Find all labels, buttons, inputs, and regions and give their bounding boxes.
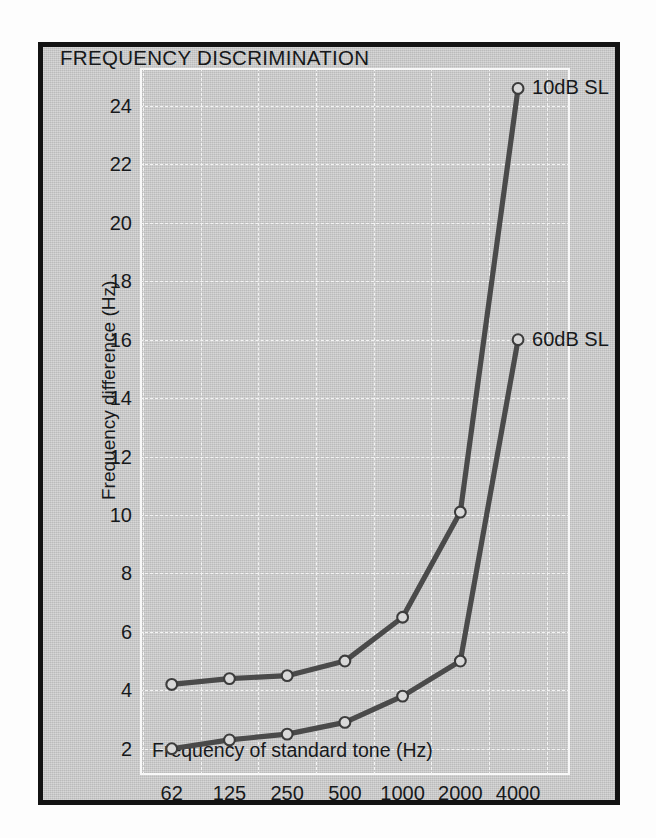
data-point-60db-sl-125 [224, 735, 235, 746]
data-point-60db-sl-4000 [513, 334, 524, 345]
series-lines [0, 0, 656, 838]
data-point-10db-sl-500 [340, 656, 351, 667]
data-point-10db-sl-125 [224, 673, 235, 684]
data-point-10db-sl-250 [282, 670, 293, 681]
data-point-60db-sl-62 [166, 743, 177, 754]
data-point-10db-sl-4000 [513, 83, 524, 94]
series-label-10db: 10dB SL [532, 76, 609, 99]
data-point-10db-sl-62 [166, 679, 177, 690]
data-point-60db-sl-2000 [455, 656, 466, 667]
data-point-60db-sl-500 [340, 717, 351, 728]
series-line-60db-sl [172, 340, 518, 749]
data-point-10db-sl-1000 [397, 612, 408, 623]
data-point-60db-sl-250 [282, 729, 293, 740]
series-line-10db-sl [172, 88, 518, 684]
figure-root: FREQUENCY DISCRIMINATION 246810121416182… [0, 0, 656, 838]
data-point-60db-sl-1000 [397, 691, 408, 702]
data-point-10db-sl-2000 [455, 507, 466, 518]
series-label-60db: 60dB SL [532, 328, 609, 351]
